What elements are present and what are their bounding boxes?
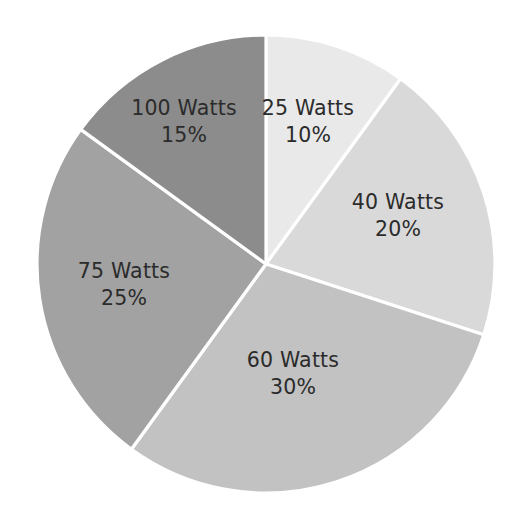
pie-slices-group [37,35,495,493]
pie-chart: 25 Watts10%40 Watts20%60 Watts30%75 Watt… [0,0,518,514]
pie-chart-canvas [0,0,518,514]
